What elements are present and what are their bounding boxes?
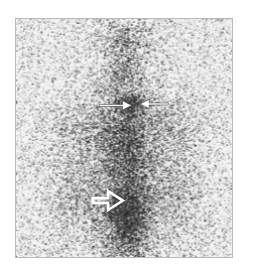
scintigraphy-figure: [0, 0, 259, 276]
scan-image-frame: [15, 18, 233, 258]
scintigraphy-scan-image: [16, 19, 232, 257]
